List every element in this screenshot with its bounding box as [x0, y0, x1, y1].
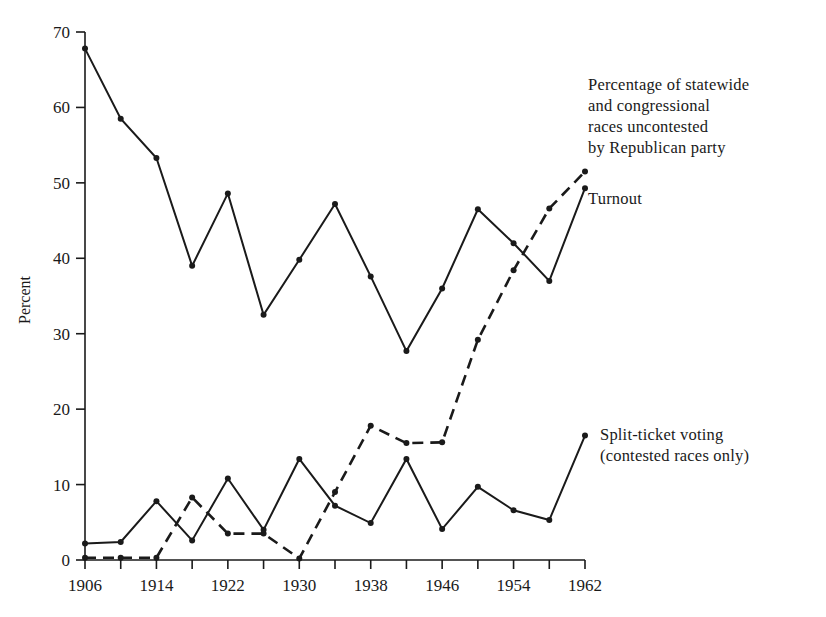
series-line-1	[85, 172, 585, 559]
data-point	[153, 555, 159, 561]
data-point	[475, 484, 481, 490]
data-point	[82, 555, 88, 561]
data-point	[225, 476, 231, 482]
data-point	[511, 240, 517, 246]
data-point	[546, 206, 552, 212]
data-point	[225, 531, 231, 537]
data-point	[475, 337, 481, 343]
data-point	[261, 312, 267, 318]
data-point	[439, 285, 445, 291]
data-point	[368, 520, 374, 526]
x-tick-label: 1962	[568, 576, 602, 595]
data-point	[296, 456, 302, 462]
annotation-uncontested: Percentage of statewide and congressiona…	[588, 74, 749, 158]
data-point	[439, 439, 445, 445]
y-tick-label: 70	[53, 23, 70, 42]
y-tick-label: 30	[53, 325, 70, 344]
data-point	[475, 206, 481, 212]
y-tick-label: 60	[53, 98, 70, 117]
data-point	[189, 494, 195, 500]
data-point	[546, 517, 552, 523]
data-point	[189, 537, 195, 543]
annotation-split-ticket: Split-ticket voting (contested races onl…	[600, 424, 749, 466]
x-tick-label: 1938	[354, 576, 388, 595]
y-axis: 010203040506070	[53, 23, 85, 570]
x-tick-label: 1922	[211, 576, 245, 595]
y-tick-label: 40	[53, 249, 70, 268]
series-line-0	[85, 49, 585, 351]
data-point	[118, 539, 124, 545]
data-point	[332, 201, 338, 207]
data-point	[582, 433, 588, 439]
y-tick-label: 0	[62, 551, 71, 570]
data-point	[332, 489, 338, 495]
data-point	[225, 190, 231, 196]
data-point	[153, 155, 159, 161]
x-axis: 19061914192219301938194619541962	[68, 560, 602, 595]
chart-figure: 010203040506070 190619141922193019381946…	[0, 0, 826, 617]
data-point	[368, 423, 374, 429]
x-tick-label: 1914	[139, 576, 174, 595]
data-point	[82, 540, 88, 546]
data-point	[261, 527, 267, 533]
data-point	[153, 498, 159, 504]
data-point	[118, 116, 124, 122]
x-tick-label: 1906	[68, 576, 102, 595]
data-point	[439, 526, 445, 532]
x-tick-label: 1946	[425, 576, 459, 595]
y-tick-label: 10	[53, 476, 70, 495]
data-point	[403, 348, 409, 354]
data-point	[368, 273, 374, 279]
data-point	[118, 555, 124, 561]
data-point	[511, 267, 517, 273]
data-point	[82, 46, 88, 52]
y-axis-title: Percent	[16, 275, 33, 324]
data-point	[546, 278, 552, 284]
data-point	[582, 169, 588, 175]
data-point	[403, 440, 409, 446]
data-point	[296, 555, 302, 561]
y-tick-label: 50	[53, 174, 70, 193]
data-series-group	[82, 46, 588, 562]
x-tick-label: 1930	[282, 576, 316, 595]
data-point	[511, 507, 517, 513]
annotation-turnout: Turnout	[588, 188, 642, 209]
x-tick-label: 1954	[497, 576, 532, 595]
data-point	[332, 503, 338, 509]
y-axis-title-text: Percent	[16, 275, 33, 324]
data-point	[296, 257, 302, 263]
data-point	[189, 263, 195, 269]
y-tick-label: 20	[53, 400, 70, 419]
data-point	[403, 456, 409, 462]
